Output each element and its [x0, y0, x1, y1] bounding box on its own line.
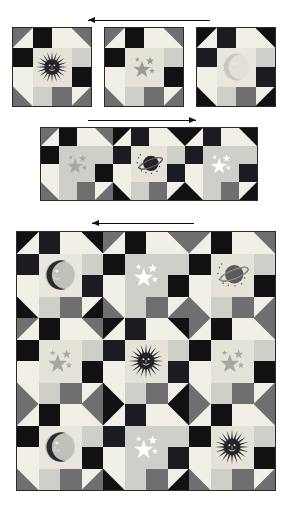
quilt-block[interactable] [196, 27, 276, 107]
block-square-patch [189, 275, 211, 297]
block-square-patch [232, 469, 254, 491]
quilt-block[interactable] [113, 128, 185, 200]
quilt-block[interactable] [17, 232, 103, 318]
planet-icon [134, 149, 165, 180]
block-square-patch [82, 254, 104, 276]
block-patch-grid [105, 28, 183, 106]
block-patch-grid [103, 404, 189, 490]
arrow-shaft [88, 120, 196, 121]
quilt-block[interactable] [17, 404, 103, 490]
block-corner-triangle [17, 469, 39, 491]
block-corner-triangle [168, 469, 190, 491]
block-square-patch [146, 232, 168, 254]
quilt-block[interactable] [17, 318, 103, 404]
quilt-block[interactable] [103, 318, 189, 404]
block-square-patch [60, 404, 82, 426]
block-corner-triangle [167, 182, 185, 200]
block-square-patch [168, 447, 190, 469]
block-square-patch [189, 361, 211, 383]
block-center-panel [125, 426, 168, 469]
quilt-block[interactable] [189, 318, 275, 404]
block-corner-triangle [82, 297, 104, 319]
block-center-panel [39, 426, 82, 469]
quilt-block[interactable] [185, 128, 257, 200]
block-square-patch [149, 182, 167, 200]
quilt-block[interactable] [189, 232, 275, 318]
block-square-patch [17, 426, 39, 448]
block-square-patch [82, 275, 104, 297]
quilt-block[interactable] [189, 404, 275, 490]
block-square-patch [17, 447, 39, 469]
block-square-patch [256, 67, 276, 87]
block-corner-triangle [254, 404, 276, 426]
sun-icon [214, 429, 251, 466]
block-square-patch [60, 297, 82, 319]
block-patch-grid [197, 28, 275, 106]
block-square-patch [144, 28, 164, 48]
block-square-patch [254, 426, 276, 448]
block-corner-triangle [82, 383, 104, 405]
block-corner-triangle [113, 128, 131, 146]
quilt-block[interactable] [41, 128, 113, 200]
block-square-patch [103, 447, 125, 469]
block-square-patch [39, 232, 61, 254]
block-corner-triangle [189, 318, 211, 340]
block-square-patch [39, 404, 61, 426]
block-center-panel [211, 426, 254, 469]
block-square-patch [13, 67, 33, 87]
block-corner-triangle [164, 87, 184, 107]
quilt-block[interactable] [12, 27, 92, 107]
block-corner-triangle [197, 87, 217, 107]
block-corner-triangle [82, 318, 104, 340]
block-square-patch [103, 254, 125, 276]
block-corner-triangle [103, 297, 125, 319]
block-corner-triangle [82, 232, 104, 254]
block-corner-triangle [17, 232, 39, 254]
block-patch-grid [17, 318, 103, 404]
stars-icon [128, 429, 165, 466]
quilt-block-row [17, 318, 275, 404]
block-corner-triangle [189, 297, 211, 319]
quilt-block[interactable] [104, 27, 184, 107]
block-corner-triangle [82, 404, 104, 426]
block-center-panel [125, 48, 164, 87]
block-square-patch [60, 469, 82, 491]
block-square-patch [17, 254, 39, 276]
block-corner-triangle [254, 297, 276, 319]
block-square-patch [103, 340, 125, 362]
quilt-block[interactable] [103, 404, 189, 490]
block-corner-triangle [95, 128, 113, 146]
block-square-patch [17, 340, 39, 362]
block-corner-triangle [239, 182, 257, 200]
block-square-patch [82, 426, 104, 448]
arrow-head-icon [189, 117, 196, 123]
block-corner-triangle [103, 383, 125, 405]
block-square-patch [221, 128, 239, 146]
block-square-patch [189, 254, 211, 276]
block-square-patch [95, 146, 113, 164]
row1-direction-arrow [88, 16, 210, 26]
arrow-head-icon [92, 220, 99, 226]
quilt-block[interactable] [103, 232, 189, 318]
block-center-panel [33, 48, 72, 87]
block-square-patch [146, 297, 168, 319]
block-square-patch [189, 426, 211, 448]
block-square-patch [144, 87, 164, 107]
block-corner-triangle [13, 87, 33, 107]
block-square-patch [211, 383, 233, 405]
block-square-patch [113, 146, 131, 164]
block-square-patch [254, 340, 276, 362]
block-patch-grid [13, 28, 91, 106]
arrow-head-icon [88, 17, 95, 23]
block-square-patch [17, 275, 39, 297]
block-square-patch [17, 361, 39, 383]
block-patch-grid [41, 128, 113, 200]
block-square-patch [221, 182, 239, 200]
block-corner-triangle [168, 232, 190, 254]
block-corner-triangle [254, 232, 276, 254]
block-square-patch [232, 297, 254, 319]
block-square-patch [203, 128, 221, 146]
block-patch-grid [17, 404, 103, 490]
row2-direction-arrow [88, 116, 196, 126]
stars-icon [127, 50, 161, 84]
